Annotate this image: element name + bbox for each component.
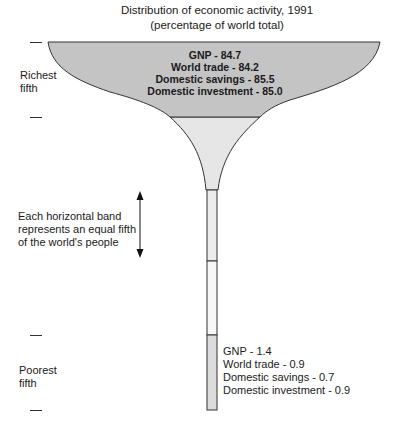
richest-label: Richest fifth xyxy=(20,69,57,95)
poorest-label-line1: Poorest xyxy=(19,364,57,377)
poorest-label: Poorest fifth xyxy=(19,364,57,390)
poorest-trade: World trade - 0.9 xyxy=(223,358,350,371)
richest-values: GNP - 84.7 World trade - 84.2 Domestic s… xyxy=(100,49,330,97)
richest-label-line2: fifth xyxy=(20,82,57,95)
band-note: Each horizontal band represents an equal… xyxy=(18,210,136,249)
band-third-fifth xyxy=(207,190,217,261)
richest-savings: Domestic savings - 85.5 xyxy=(100,73,330,85)
note-line3: of the world's people xyxy=(18,236,136,249)
tick-mark xyxy=(30,42,42,43)
arrow-up-icon xyxy=(137,191,144,200)
richest-label-line1: Richest xyxy=(20,69,57,82)
poorest-investment: Domestic investment - 0.9 xyxy=(223,384,350,397)
arrow-down-icon xyxy=(137,249,144,258)
note-line2: represents an equal fifth xyxy=(18,223,136,236)
poorest-label-line2: fifth xyxy=(19,377,57,390)
note-line1: Each horizontal band xyxy=(18,210,136,223)
band-fourth-fifth xyxy=(207,261,217,335)
tick-mark xyxy=(30,410,42,411)
band-second-fifth xyxy=(170,117,260,190)
richest-gnp: GNP - 84.7 xyxy=(100,49,330,61)
poorest-savings: Domestic savings - 0.7 xyxy=(223,371,350,384)
poorest-gnp: GNP - 1.4 xyxy=(223,345,350,358)
richest-investment: Domestic investment - 85.0 xyxy=(100,85,330,97)
richest-trade: World trade - 84.2 xyxy=(100,61,330,73)
poorest-values: GNP - 1.4 World trade - 0.9 Domestic sav… xyxy=(223,345,350,397)
band-poorest-fifth xyxy=(207,335,217,410)
tick-mark xyxy=(30,117,42,118)
tick-mark xyxy=(30,335,42,336)
